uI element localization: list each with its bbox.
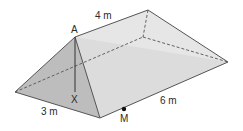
label-top-edge-length: 4 m xyxy=(95,11,112,21)
point-m-marker xyxy=(122,107,126,111)
label-length: 6 m xyxy=(160,96,177,106)
prism-diagram: A X M 4 m 3 m 6 m xyxy=(0,0,243,131)
label-apex-a: A xyxy=(71,25,78,35)
label-base-width: 3 m xyxy=(41,107,58,117)
prism-figure xyxy=(0,0,243,131)
label-midpoint-m: M xyxy=(120,114,128,124)
label-foot-x: X xyxy=(71,95,78,105)
